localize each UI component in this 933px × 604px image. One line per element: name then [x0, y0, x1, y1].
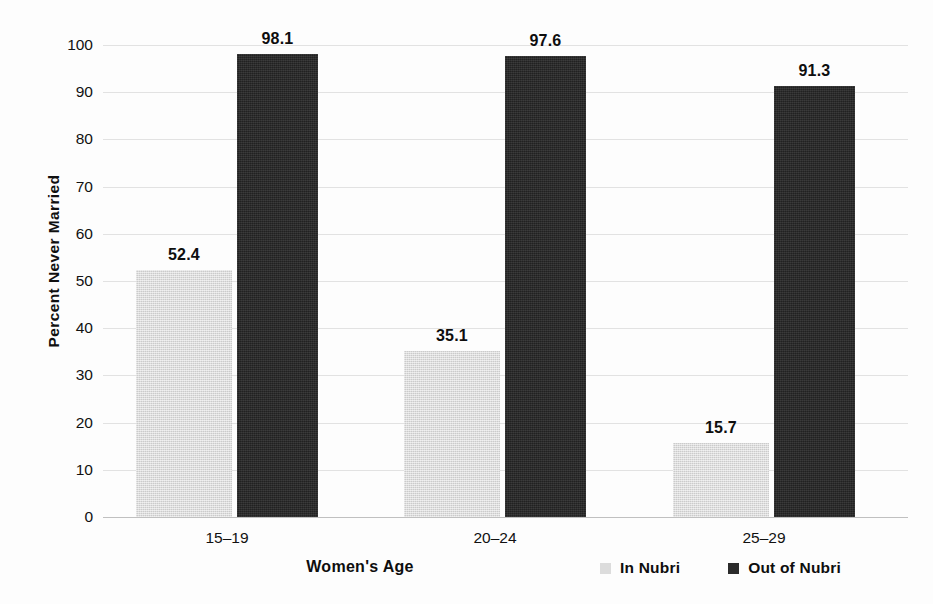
bar-out-of-nubri: 91.3 [774, 86, 855, 517]
y-axis-tick-label: 30 [37, 366, 93, 384]
bar-value-label: 52.4 [168, 246, 200, 264]
x-axis-tick-label: 25–29 [742, 529, 785, 547]
bar-in-nubri: 52.4 [136, 270, 232, 517]
bar-value-label: 15.7 [705, 419, 737, 437]
chart-legend: In NubriOut of Nubri [600, 559, 841, 577]
y-axis-tick-label: 0 [37, 508, 93, 526]
x-axis-tick-label: 15–19 [205, 529, 248, 547]
legend-swatch-light [600, 563, 611, 574]
y-axis-tick-label: 60 [37, 225, 93, 243]
bar-value-label: 35.1 [436, 327, 468, 345]
y-axis-tick-label: 100 [37, 36, 93, 54]
bar-in-nubri: 15.7 [673, 443, 769, 517]
y-axis-tick-label: 80 [37, 130, 93, 148]
x-axis-title: Women's Age [220, 558, 500, 576]
legend-swatch-dark [728, 563, 739, 574]
bar-chart: Percent Never Married 010203040506070809… [0, 0, 933, 604]
y-axis-tick-label: 10 [37, 461, 93, 479]
legend-label: In Nubri [620, 559, 680, 577]
y-axis-tick-label: 50 [37, 272, 93, 290]
bar-value-label: 97.6 [530, 32, 562, 50]
gridline [103, 45, 908, 46]
bar-value-label: 91.3 [799, 62, 831, 80]
bar-out-of-nubri: 98.1 [237, 54, 318, 517]
legend-label: Out of Nubri [748, 559, 841, 577]
y-axis-tick-label: 40 [37, 319, 93, 337]
plot-area: 010203040506070809010052.498.135.197.615… [103, 45, 908, 517]
legend-item: In Nubri [600, 559, 680, 577]
y-axis-tick-label: 20 [37, 414, 93, 432]
legend-item: Out of Nubri [728, 559, 841, 577]
gridline [103, 517, 908, 518]
bar-out-of-nubri: 97.6 [505, 56, 586, 517]
x-axis-tick-label: 20–24 [473, 529, 516, 547]
bar-value-label: 98.1 [262, 30, 294, 48]
y-axis-tick-label: 90 [37, 83, 93, 101]
bar-in-nubri: 35.1 [404, 351, 500, 517]
y-axis-tick-label: 70 [37, 178, 93, 196]
